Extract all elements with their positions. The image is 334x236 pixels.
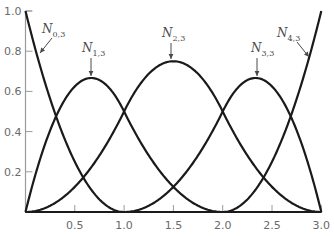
label-n0-3: N0,3 <box>40 22 65 53</box>
arrowhead-icon <box>169 54 174 59</box>
x-tick-label: 2.0 <box>214 219 232 232</box>
b-spline-basis-chart: 0.51.01.52.02.53.0 0.20.40.60.81.0 N0,3N… <box>0 0 334 236</box>
x-tick-label: 1.0 <box>115 219 133 232</box>
x-tick-label: 3.0 <box>313 219 331 232</box>
curve-n2-3 <box>26 61 322 212</box>
label-n4-3: N4,3 <box>276 26 309 57</box>
x-ticks: 0.51.01.52.02.53.0 <box>66 205 330 232</box>
curve-label-text: N1,3 <box>81 41 105 58</box>
x-tick-label: 1.5 <box>165 219 183 232</box>
arrowhead-icon <box>89 71 94 76</box>
y-tick-label: 0.6 <box>4 85 22 98</box>
curve-label-text: N4,3 <box>276 26 300 43</box>
y-tick-label: 1.0 <box>4 5 22 18</box>
curve-label-text: N2,3 <box>161 26 185 43</box>
curve-annotations: N0,3N1,3N2,3N3,3N4,3 <box>40 22 309 76</box>
curve-label-text: N3,3 <box>250 41 274 58</box>
label-n1-3: N1,3 <box>81 41 105 76</box>
x-tick-label: 2.5 <box>263 219 281 232</box>
label-n3-3: N3,3 <box>250 41 274 76</box>
x-tick-label: 0.5 <box>66 219 84 232</box>
curve-label-text: N0,3 <box>41 22 65 39</box>
y-ticks: 0.20.40.60.81.0 <box>4 5 33 179</box>
y-tick-label: 0.4 <box>4 126 22 139</box>
y-tick-label: 0.2 <box>4 166 22 179</box>
y-tick-label: 0.8 <box>4 45 22 58</box>
y-axis <box>26 11 33 212</box>
label-n2-3: N2,3 <box>161 26 185 59</box>
arrowhead-icon <box>255 71 260 76</box>
